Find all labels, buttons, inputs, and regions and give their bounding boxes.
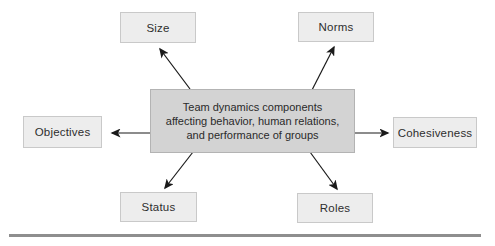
node-cohesiveness-label: Cohesiveness (398, 127, 473, 139)
center-box: Team dynamics components affecting behav… (150, 89, 355, 153)
node-norms: Norms (298, 12, 374, 42)
team-dynamics-diagram: Team dynamics components affecting behav… (0, 0, 495, 246)
arrow-to-status (165, 152, 193, 188)
node-size: Size (120, 12, 196, 43)
arrow-to-roles (310, 152, 337, 189)
node-roles-label: Roles (320, 202, 350, 214)
arrow-to-norms (312, 47, 334, 90)
node-status-label: Status (142, 201, 176, 213)
node-cohesiveness: Cohesiveness (393, 117, 477, 148)
node-status: Status (120, 192, 197, 222)
node-objectives: Objectives (23, 116, 102, 148)
node-size-label: Size (146, 22, 169, 34)
center-box-line-3: and performance of groups (186, 128, 318, 142)
node-norms-label: Norms (319, 21, 354, 33)
arrow-to-size (160, 49, 190, 89)
bottom-rule (9, 234, 481, 237)
center-box-line-1: Team dynamics components (183, 100, 322, 114)
node-objectives-label: Objectives (35, 126, 91, 138)
center-box-line-2: affecting behavior, human relations, (166, 114, 339, 128)
node-roles: Roles (297, 193, 373, 223)
